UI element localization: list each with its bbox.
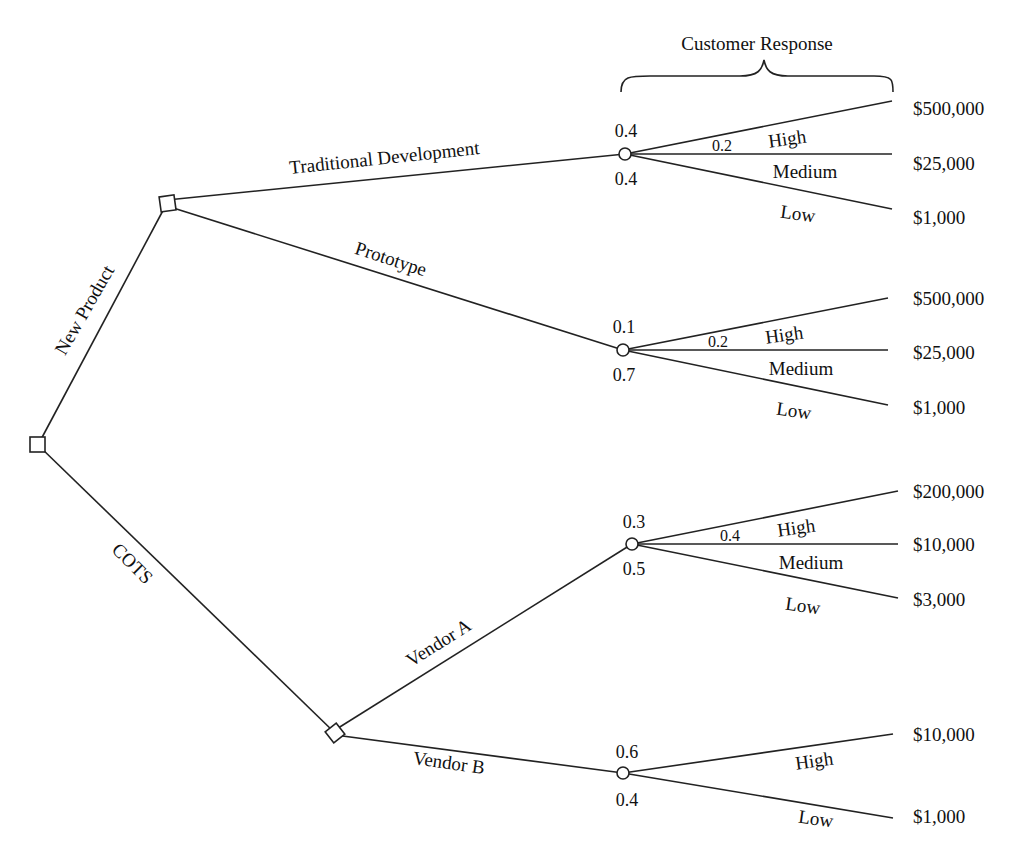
vb-payoff-high: $10,000 [913,724,975,745]
edge-new-product [38,203,167,445]
trad-payoff-high: $500,000 [913,98,984,119]
proto-payoff-high: $500,000 [913,288,984,309]
edge-proto-low [623,350,888,405]
va-payoff-low: $3,000 [913,589,965,610]
prototype-chance-node [617,344,629,356]
vb-prob-high: 0.6 [616,742,639,762]
va-payoff-high: $200,000 [913,481,984,502]
vb-outcome-low: Low [797,806,835,832]
proto-payoff-low: $1,000 [913,397,965,418]
vb-outcome-high: High [794,747,835,773]
va-prob-low: 0.5 [623,559,646,579]
edge-vendor-a [335,544,632,730]
edge-cots [38,445,335,733]
trad-prob-medium: 0.2 [712,137,732,154]
proto-prob-low: 0.7 [613,365,636,385]
edge-va-low [632,544,898,598]
proto-payoff-medium: $25,000 [913,342,975,363]
va-outcome-low: Low [784,593,822,619]
va-outcome-medium: Medium [779,552,844,573]
new-product-decision-node [159,195,176,212]
vendor-b-chance-node [617,767,629,779]
trad-outcome-low: Low [779,201,817,227]
va-payoff-medium: $10,000 [913,534,975,555]
edge-va-high [632,491,898,544]
label-cots: COTS [108,539,157,588]
label-vendor-a: Vendor A [402,614,475,670]
label-new-product: New Product [50,261,118,358]
proto-outcome-high: High [764,321,805,347]
vendor-a-chance-node [626,538,638,550]
trad-prob-high: 0.4 [615,121,638,141]
proto-prob-medium: 0.2 [708,333,728,350]
customer-response-brace [621,60,893,92]
root-decision-node [30,437,45,452]
label-vendor-b: Vendor B [412,747,487,778]
va-prob-high: 0.3 [623,512,646,532]
va-prob-medium: 0.4 [720,527,740,544]
trad-outcome-medium: Medium [773,161,838,182]
label-prototype: Prototype [353,237,430,280]
proto-prob-high: 0.1 [613,317,636,337]
decision-tree: Customer Response New Product COTS Tradi… [0,0,1026,864]
proto-outcome-low: Low [775,398,813,424]
proto-outcome-medium: Medium [769,358,834,379]
trad-payoff-low: $1,000 [913,207,965,228]
trad-payoff-medium: $25,000 [913,153,975,174]
edge-prototype [167,206,623,350]
edge-trad-high [625,101,892,154]
edge-vb-low [623,773,893,818]
vb-prob-low: 0.4 [616,790,639,810]
trad-outcome-high: High [767,125,808,151]
trad-prob-low: 0.4 [615,169,638,189]
vb-payoff-low: $1,000 [913,806,965,827]
edge-trad-low [625,154,892,209]
va-outcome-high: High [776,514,817,540]
traditional-chance-node [619,148,631,160]
edge-proto-high [623,298,888,350]
edge-vb-high [623,734,893,773]
customer-response-title: Customer Response [681,33,832,54]
